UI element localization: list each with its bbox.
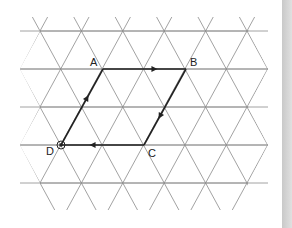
vertex-labels: A B C D xyxy=(46,56,197,159)
label-a: A xyxy=(90,56,98,68)
triangular-grid xyxy=(0,0,292,228)
page-edge-scrollbar xyxy=(282,0,292,228)
parallelogram-abcd xyxy=(57,66,186,149)
label-c: C xyxy=(148,147,156,159)
triangular-grid-diagram: A B C D xyxy=(0,0,292,228)
label-d: D xyxy=(46,145,54,157)
label-b: B xyxy=(190,56,197,68)
